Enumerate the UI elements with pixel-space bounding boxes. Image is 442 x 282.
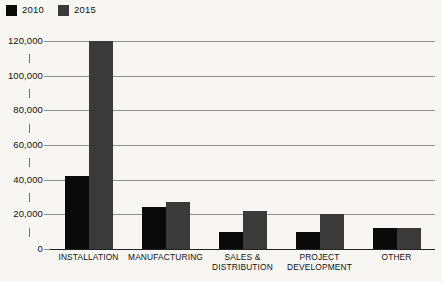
bar-2015-0	[89, 41, 113, 249]
y-axis-tick-80000	[44, 110, 50, 111]
y-axis-minor-tick-90000	[29, 89, 30, 98]
y-axis-minor-tick-70000	[29, 124, 30, 133]
y-axis-label-0: 0	[0, 244, 43, 254]
bar-2015-3	[320, 214, 344, 249]
bar-2010-1	[142, 207, 166, 249]
y-axis-tick-20000	[44, 214, 50, 215]
bar-2010-3	[296, 232, 320, 249]
gridline-0	[50, 249, 435, 250]
x-axis-label-2: SALES & DISTRIBUTION	[204, 253, 281, 272]
y-axis-label-20000: 20,000	[0, 209, 43, 219]
y-axis-label-80000: 80,000	[0, 105, 43, 115]
y-axis-minor-tick-30000	[29, 193, 30, 202]
y-axis-label-40000: 40,000	[0, 175, 43, 185]
y-axis-label-60000: 60,000	[0, 140, 43, 150]
bar-2015-4	[397, 228, 421, 249]
y-axis-tick-120000	[44, 41, 50, 42]
bar-2010-2	[219, 232, 243, 249]
y-axis-minor-tick-10000	[29, 228, 30, 237]
bar-2015-1	[166, 202, 190, 249]
bar-chart: 020,00040,00060,00080,000100,000120,000I…	[0, 0, 442, 282]
bar-2010-0	[65, 176, 89, 249]
y-axis-tick-100000	[44, 76, 50, 77]
plot-area: 020,00040,00060,00080,000100,000120,000I…	[50, 41, 435, 249]
x-axis-label-0: INSTALLATION	[50, 253, 127, 263]
y-axis-minor-tick-50000	[29, 158, 30, 167]
y-axis-tick-60000	[44, 145, 50, 146]
bar-2010-4	[373, 228, 397, 249]
y-axis-minor-tick-110000	[29, 54, 30, 63]
bar-2015-2	[243, 211, 267, 249]
x-axis-label-3: PROJECT DEVELOPMENT	[281, 253, 358, 272]
y-axis-label-120000: 120,000	[0, 36, 43, 46]
x-axis-label-1: MANUFACTURING	[127, 253, 204, 263]
x-axis-label-4: OTHER	[358, 253, 435, 263]
y-axis-tick-0	[44, 249, 50, 250]
y-axis-tick-40000	[44, 180, 50, 181]
y-axis-label-100000: 100,000	[0, 71, 43, 81]
